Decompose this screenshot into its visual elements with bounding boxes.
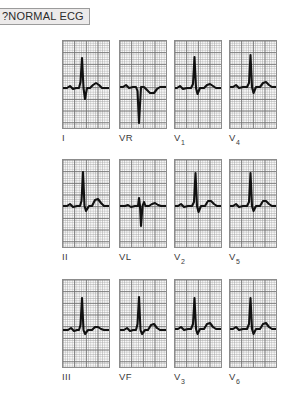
ecg-paper xyxy=(229,279,277,368)
ecg-lead-panel: III xyxy=(62,279,110,391)
lead-subscript: 3 xyxy=(181,378,185,385)
lead-name: V xyxy=(174,132,181,143)
ecg-paper xyxy=(119,40,167,129)
ecg-lead-panel: I xyxy=(62,40,110,152)
ecg-caption-box: ?NORMAL ECG xyxy=(0,8,90,25)
lead-name: V xyxy=(229,371,236,382)
ecg-paper xyxy=(119,279,167,368)
lead-subscript: 5 xyxy=(236,258,240,265)
ecg-graph-paper-grid xyxy=(175,160,221,247)
ecg-lead-label-V2: V2 xyxy=(174,252,222,266)
ecg-graph-paper-grid xyxy=(230,280,276,367)
ecg-caption-label: ?NORMAL ECG xyxy=(2,11,84,22)
ecg-graph-paper-grid xyxy=(63,280,109,367)
lead-name: V xyxy=(174,371,181,382)
lead-name: VF xyxy=(119,371,132,382)
ecg-lead-panel: V3 xyxy=(174,279,222,391)
lead-name: I xyxy=(62,132,65,143)
lead-name: V xyxy=(229,251,236,262)
lead-name: III xyxy=(62,371,71,382)
lead-name: V xyxy=(229,132,236,143)
ecg-graph-paper-grid xyxy=(63,160,109,247)
ecg-graph-paper-grid xyxy=(120,41,166,128)
ecg-paper xyxy=(229,40,277,129)
ecg-graph-paper-grid xyxy=(175,41,221,128)
ecg-paper xyxy=(174,40,222,129)
lead-name: VR xyxy=(119,132,133,143)
ecg-graph-paper-grid xyxy=(230,160,276,247)
ecg-paper xyxy=(119,159,167,248)
ecg-graph-paper-grid xyxy=(175,280,221,367)
ecg-lead-label-VF: VF xyxy=(119,372,167,386)
lead-subscript: 4 xyxy=(236,139,240,146)
ecg-lead-panel: V4 xyxy=(229,40,277,152)
ecg-graph-paper-grid xyxy=(230,41,276,128)
ecg-lead-label-III: III xyxy=(62,372,110,386)
ecg-paper xyxy=(62,159,110,248)
lead-subscript: 6 xyxy=(236,378,240,385)
ecg-lead-panel: V1 xyxy=(174,40,222,152)
ecg-row: III VF xyxy=(0,279,286,394)
ecg-paper xyxy=(62,279,110,368)
ecg-row: I VR xyxy=(0,40,286,155)
ecg-lead-panel: V2 xyxy=(174,159,222,271)
ecg-lead-panel: VF xyxy=(119,279,167,391)
lead-name: II xyxy=(62,251,68,262)
lead-subscript: 1 xyxy=(181,139,185,146)
ecg-graph-paper-grid xyxy=(120,160,166,247)
ecg-paper xyxy=(229,159,277,248)
lead-name: V xyxy=(174,251,181,262)
lead-subscript: 2 xyxy=(181,258,185,265)
ecg-lead-label-I: I xyxy=(62,133,110,147)
ecg-lead-label-V3: V3 xyxy=(174,372,222,386)
ecg-lead-label-II: II xyxy=(62,252,110,266)
ecg-row: II VL xyxy=(0,159,286,274)
ecg-lead-panel: V5 xyxy=(229,159,277,271)
ecg-paper xyxy=(174,159,222,248)
lead-name: VL xyxy=(119,251,131,262)
ecg-paper xyxy=(174,279,222,368)
ecg-lead-panel: V6 xyxy=(229,279,277,391)
ecg-graph-paper-grid xyxy=(120,280,166,367)
ecg-lead-panel: VL xyxy=(119,159,167,271)
ecg-lead-label-V4: V4 xyxy=(229,133,277,147)
ecg-lead-panel: II xyxy=(62,159,110,271)
ecg-paper xyxy=(62,40,110,129)
ecg-graph-paper-grid xyxy=(63,41,109,128)
twelve-lead-ecg-figure: I VR xyxy=(0,40,286,398)
ecg-lead-label-V1: V1 xyxy=(174,133,222,147)
ecg-lead-label-VR: VR xyxy=(119,133,167,147)
ecg-lead-label-V5: V5 xyxy=(229,252,277,266)
ecg-lead-label-VL: VL xyxy=(119,252,167,266)
ecg-lead-label-V6: V6 xyxy=(229,372,277,386)
ecg-lead-panel: VR xyxy=(119,40,167,152)
